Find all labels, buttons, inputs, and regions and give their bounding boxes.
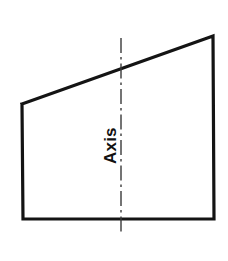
- axis-diagram-svg: Axis: [0, 0, 228, 261]
- figure-canvas: Axis: [0, 0, 228, 261]
- axis-label: Axis: [101, 127, 120, 164]
